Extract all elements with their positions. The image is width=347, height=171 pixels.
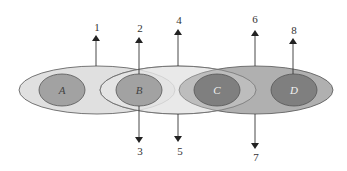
- diagram-canvas: A B C D 1 2 4 6 8 3 5 7: [0, 0, 347, 171]
- arrow-label-1: 1: [94, 21, 100, 33]
- arrow-label-5: 5: [177, 145, 183, 157]
- arrow-label-3: 3: [137, 145, 143, 157]
- label-b: B: [136, 84, 143, 96]
- label-a: A: [58, 84, 66, 96]
- label-d: D: [289, 84, 298, 96]
- arrow-label-2: 2: [137, 22, 143, 34]
- arrow-label-4: 4: [176, 14, 182, 26]
- arrow-label-7: 7: [253, 151, 259, 163]
- label-c: C: [213, 84, 221, 96]
- arrow-label-6: 6: [252, 13, 258, 25]
- arrow-label-8: 8: [291, 24, 297, 36]
